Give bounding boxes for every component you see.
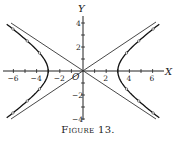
svg-text:−4: −4 [72, 115, 83, 124]
hyperbola-figure: Y X O −6−4−2246 42−2−4 [0, 0, 176, 144]
svg-text:−2: −2 [54, 74, 65, 83]
svg-text:−4: −4 [31, 74, 42, 83]
svg-text:−6: −6 [7, 74, 18, 83]
figure-caption: Figure 13. [0, 124, 176, 135]
svg-text:−2: −2 [72, 91, 83, 100]
svg-text:2: 2 [103, 74, 108, 83]
svg-text:2: 2 [76, 43, 81, 52]
svg-text:6: 6 [150, 74, 155, 83]
x-tick-labels: −6−4−2246 [7, 74, 154, 83]
y-axis-label: Y [78, 3, 86, 14]
x-axis-label: X [164, 66, 173, 77]
origin-label: O [72, 72, 80, 82]
svg-text:4: 4 [126, 74, 131, 83]
svg-text:4: 4 [76, 19, 81, 28]
